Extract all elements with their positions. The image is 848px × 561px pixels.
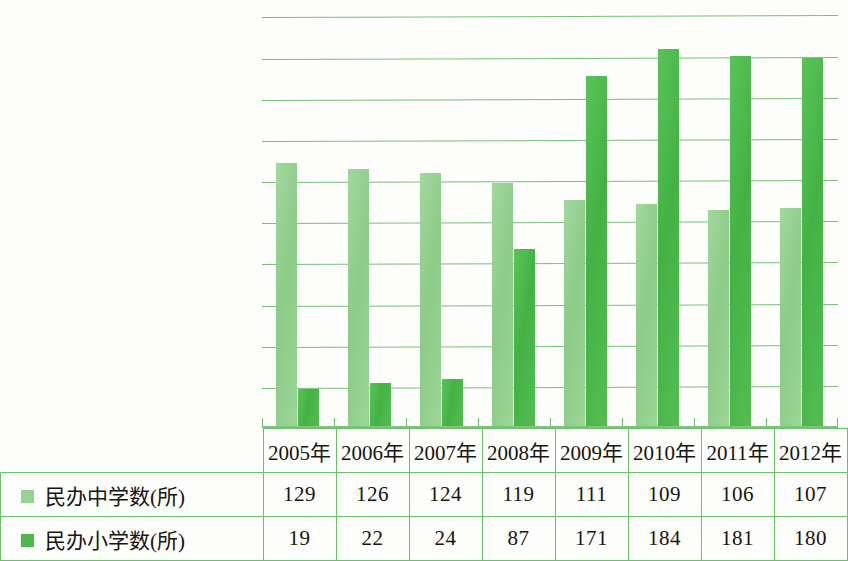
bar-middle-school bbox=[636, 204, 657, 428]
bar-primary-school bbox=[370, 383, 391, 428]
value-cell: 119 bbox=[482, 473, 555, 517]
bar-group bbox=[478, 0, 550, 428]
bar-middle-school bbox=[780, 208, 801, 428]
bar-group bbox=[766, 0, 838, 428]
value-cell: 184 bbox=[628, 517, 701, 561]
bar-group bbox=[550, 0, 622, 428]
value-cell: 126 bbox=[336, 473, 409, 517]
legend-cell: 民办小学数(所) bbox=[1, 517, 264, 561]
bar-middle-school bbox=[492, 183, 513, 428]
value-cell: 181 bbox=[701, 517, 774, 561]
bar-primary-school bbox=[298, 389, 319, 428]
value-cell: 107 bbox=[774, 473, 847, 517]
data-table-body: 2005年2006年2007年2008年2009年2010年2011年2012年… bbox=[1, 429, 848, 561]
value-cell: 19 bbox=[263, 517, 336, 561]
data-table: 2005年2006年2007年2008年2009年2010年2011年2012年… bbox=[0, 428, 848, 561]
bar-group bbox=[694, 0, 766, 428]
value-cell: 109 bbox=[628, 473, 701, 517]
bar-group bbox=[622, 0, 694, 428]
bar-chart-plot-area bbox=[262, 0, 838, 428]
bar-group bbox=[334, 0, 406, 428]
value-cell: 22 bbox=[336, 517, 409, 561]
value-cell: 106 bbox=[701, 473, 774, 517]
bar-primary-school bbox=[586, 76, 607, 428]
table-header-row: 2005年2006年2007年2008年2009年2010年2011年2012年 bbox=[1, 429, 848, 473]
year-header-4: 2008年 bbox=[482, 429, 555, 473]
bar-primary-school bbox=[514, 249, 535, 428]
bar-middle-school bbox=[276, 163, 297, 428]
legend-label: 民办小学数(所) bbox=[45, 524, 185, 554]
value-cell: 87 bbox=[482, 517, 555, 561]
value-cell: 180 bbox=[774, 517, 847, 561]
bar-primary-school bbox=[730, 56, 751, 428]
bar-middle-school bbox=[708, 210, 729, 428]
bar-primary-school bbox=[658, 49, 679, 428]
table-corner-cell bbox=[1, 429, 264, 473]
year-header-2: 2006年 bbox=[336, 429, 409, 473]
table-row: 民办中学数(所)129126124119111109106107 bbox=[1, 473, 848, 517]
year-header-1: 2005年 bbox=[263, 429, 336, 473]
bar-primary-school bbox=[802, 58, 823, 428]
value-cell: 24 bbox=[409, 517, 482, 561]
value-cell: 124 bbox=[409, 473, 482, 517]
value-cell: 171 bbox=[555, 517, 628, 561]
data-table-wrapper: 2005年2006年2007年2008年2009年2010年2011年2012年… bbox=[0, 428, 838, 557]
legend-cell: 民办中学数(所) bbox=[1, 473, 264, 517]
bar-middle-school bbox=[348, 169, 369, 428]
year-header-5: 2009年 bbox=[555, 429, 628, 473]
bar-primary-school bbox=[442, 379, 463, 428]
value-cell: 129 bbox=[263, 473, 336, 517]
legend-label: 民办中学数(所) bbox=[45, 480, 185, 510]
year-header-6: 2010年 bbox=[628, 429, 701, 473]
value-cell: 111 bbox=[555, 473, 628, 517]
bar-group bbox=[262, 0, 334, 428]
year-header-8: 2012年 bbox=[774, 429, 847, 473]
bar-middle-school bbox=[564, 200, 585, 428]
bar-middle-school bbox=[420, 173, 441, 428]
legend-swatch-icon bbox=[21, 490, 34, 503]
bar-group bbox=[406, 0, 478, 428]
legend-swatch-icon bbox=[21, 534, 34, 547]
year-header-3: 2007年 bbox=[409, 429, 482, 473]
table-row: 民办小学数(所)19222487171184181180 bbox=[1, 517, 848, 561]
year-header-7: 2011年 bbox=[701, 429, 774, 473]
